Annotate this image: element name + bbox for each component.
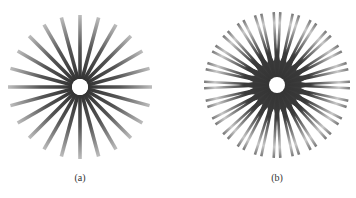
siemens-star-b	[178, 0, 356, 170]
center-hole	[72, 79, 88, 95]
caption-b: (b)	[262, 172, 292, 183]
panel-b: (b)	[178, 0, 356, 198]
center-hole	[269, 77, 285, 93]
caption-a: (a)	[65, 172, 95, 183]
siemens-star-a	[0, 0, 178, 170]
panel-a: (a)	[0, 0, 178, 198]
